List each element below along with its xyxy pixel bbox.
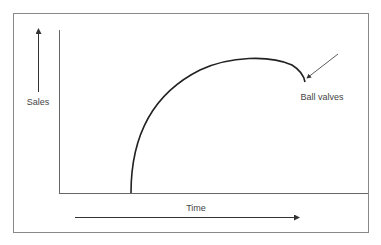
annotation-label: Ball valves [300,92,344,102]
annotation-arrow [307,54,338,78]
diagram-canvas: Sales Time Ball valves [0,0,381,245]
y-axis-label: Sales [27,97,50,107]
x-axis-label: Time [186,203,206,213]
sales-curve [131,58,305,193]
frame-border [14,14,369,233]
